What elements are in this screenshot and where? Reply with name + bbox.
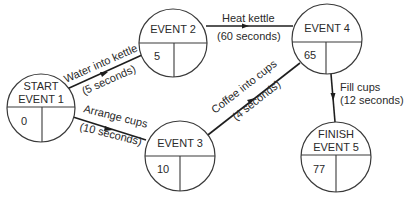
node-circle <box>292 4 362 74</box>
node-title: FINISH <box>318 128 354 140</box>
arrowhead-icon <box>242 24 249 29</box>
edge-activity-label: Heat kettle <box>222 12 275 24</box>
node-event-4: EVENT 4 65 <box>292 4 362 74</box>
arrowhead-icon <box>331 93 336 101</box>
edge-activity-label: Fill cups <box>340 81 381 93</box>
node-time-value: 77 <box>313 163 325 175</box>
node-event-3: EVENT 3 10 <box>145 121 215 191</box>
node-event-2: EVENT 2 5 <box>139 9 207 77</box>
edge-arrange-cups: Arrange cups (10 seconds) <box>73 102 149 147</box>
node-title: EVENT 2 <box>150 23 196 35</box>
node-title: START <box>23 80 58 92</box>
node-event-1: START EVENT 1 0 <box>7 74 75 142</box>
edge-fill-cups: Fill cups (12 seconds) <box>331 74 404 122</box>
edge-duration-label: (60 seconds) <box>217 30 281 42</box>
edge-water-into-kettle: Water into kettle (5 seconds) <box>62 42 142 97</box>
node-time-value: 10 <box>157 163 169 175</box>
network-diagram: Water into kettle (5 seconds) Arrange cu… <box>0 0 406 199</box>
edge-duration-label: (12 seconds) <box>340 94 404 106</box>
node-event-5: FINISH EVENT 5 77 <box>301 122 371 192</box>
node-title: EVENT 5 <box>313 141 359 153</box>
edge-heat-kettle: Heat kettle (60 seconds) <box>206 12 293 42</box>
node-time-value: 5 <box>154 50 160 62</box>
node-time-value: 65 <box>304 49 316 61</box>
node-title: EVENT 3 <box>157 137 203 149</box>
node-title: EVENT 4 <box>304 22 350 34</box>
edge-coffee-into-cups: Coffee into cups (4 seconds) <box>204 57 300 138</box>
node-time-value: 0 <box>21 115 27 127</box>
node-title: EVENT 1 <box>18 93 64 105</box>
